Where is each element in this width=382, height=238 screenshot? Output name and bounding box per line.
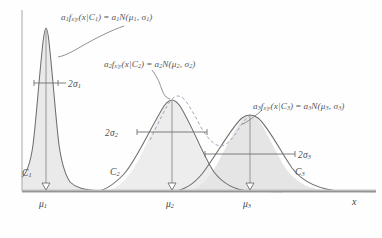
- class-label-3: C3: [295, 166, 305, 177]
- sigma-width-label-1: 2σ1: [68, 79, 81, 89]
- class-label-2: C2: [110, 166, 120, 177]
- mean-tick-label-2: μ2: [166, 198, 174, 209]
- leader-lines: [58, 26, 262, 124]
- x-axis-label: x: [352, 196, 356, 207]
- mean-tick-label-3: μ3: [243, 198, 251, 209]
- component-1-fill: [22, 28, 95, 191]
- mean-tick-label-1: μ1: [39, 198, 47, 209]
- figure-canvas: [0, 0, 382, 238]
- equation-label-component-2: a2fx|y(x|C2) = a2N(μ2, σ2): [104, 59, 196, 69]
- equation-label-component-1: a1fx|y(x|C1) = a1N(μ1, σ1): [61, 12, 153, 22]
- sigma-width-label-2: 2σ2: [105, 128, 118, 138]
- eq-2-leader-line: [152, 70, 170, 99]
- class-label-1: C1: [22, 167, 32, 178]
- eq-1-leader-line: [58, 26, 124, 57]
- equation-label-component-3: a3fx|y(x|C3) = a3N(μ3, σ3): [253, 101, 345, 111]
- gaussian-mixture-figure: a1fx|y(x|C1) = a1N(μ1, σ1) a2fx|y(x|C2) …: [0, 0, 382, 238]
- sigma-width-label-3: 2σ3: [298, 150, 311, 160]
